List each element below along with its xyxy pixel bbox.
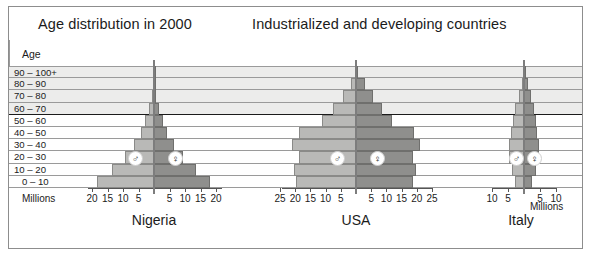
- axis-tick-label: 15: [396, 193, 407, 204]
- bar-male: [509, 139, 524, 151]
- axis-tick-label: 5: [136, 193, 142, 204]
- age-band-label: 20 – 30: [14, 151, 46, 163]
- axis-tick: [295, 188, 296, 192]
- axis-tick: [139, 188, 140, 192]
- axis-tick: [310, 188, 311, 192]
- axis-tick: [417, 188, 418, 192]
- female-symbol-icon: ♀: [168, 151, 183, 166]
- axis-tick-label: 10: [179, 193, 190, 204]
- bar-female: [524, 127, 537, 139]
- unit-label: Millions: [530, 201, 563, 212]
- axis-tick-label: 5: [505, 193, 511, 204]
- age-band-label: 70 – 80: [14, 90, 46, 102]
- axis-tick: [386, 188, 387, 192]
- age-band-label: 0 – 10: [22, 176, 49, 188]
- age-band-label: 50 – 60: [14, 115, 46, 127]
- pyramid-center-axis: [355, 60, 356, 194]
- axis-tick: [371, 188, 372, 192]
- male-symbol-icon: ♂: [128, 151, 143, 166]
- pyramid-center-axis: [523, 60, 524, 194]
- age-band-label: 10 – 20: [14, 164, 46, 176]
- axis-tick: [402, 188, 403, 192]
- scale-usa: 551010151520202525: [282, 188, 432, 214]
- bar-male: [511, 127, 524, 139]
- pyramid-center-axis: [153, 60, 154, 194]
- pyramid-italy: ♂♀: [0, 66, 591, 188]
- unit-label: Millions: [22, 193, 55, 204]
- bar-female: [524, 176, 532, 188]
- female-symbol-icon: ♀: [527, 151, 542, 166]
- axis-tick: [108, 188, 109, 192]
- age-axis-label: Age: [22, 48, 41, 60]
- axis-tick: [170, 188, 171, 192]
- male-symbol-icon: ♂: [509, 151, 524, 166]
- axis-tick-label: 25: [426, 193, 437, 204]
- axis-tick: [508, 188, 509, 192]
- axis-tick: [280, 188, 281, 192]
- axis-tick-label: 10: [486, 193, 497, 204]
- title-right: Industrialized and developing countries: [252, 16, 507, 32]
- axis-tick-label: 5: [338, 193, 344, 204]
- axis-tick-label: 20: [86, 193, 97, 204]
- title-left: Age distribution in 2000: [38, 16, 192, 32]
- axis-tick-label: 20: [210, 193, 221, 204]
- bar-female: [524, 139, 539, 151]
- country-name-usa: USA: [342, 212, 371, 228]
- axis-tick-label: 10: [117, 193, 128, 204]
- age-band-label: 80 – 90: [14, 78, 46, 90]
- bar-female: [524, 115, 536, 127]
- axis-tick: [341, 188, 342, 192]
- axis-tick-label: 10: [320, 193, 331, 204]
- population-pyramid-figure: Age distribution in 2000 Industrialized …: [0, 0, 591, 262]
- axis-tick-label: 15: [305, 193, 316, 204]
- axis-tick: [326, 188, 327, 192]
- bar-female: [524, 103, 534, 115]
- axis-tick-label: 15: [102, 193, 113, 204]
- axis-tick: [92, 188, 93, 192]
- axis-tick: [216, 188, 217, 192]
- axis-tick-label: 5: [368, 193, 374, 204]
- axis-tick: [556, 188, 557, 192]
- axis-tick: [432, 188, 433, 192]
- age-band-label: 40 – 50: [14, 127, 46, 139]
- axis-tick-label: 5: [167, 193, 173, 204]
- axis-tick: [123, 188, 124, 192]
- axis-tick-label: 15: [195, 193, 206, 204]
- age-band-label: 60 – 70: [14, 103, 46, 115]
- axis-tick-label: 10: [381, 193, 392, 204]
- female-symbol-icon: ♀: [370, 151, 385, 166]
- axis-tick-label: 25: [274, 193, 285, 204]
- scale-nigeria: 55101015152020: [88, 188, 222, 214]
- country-name-nigeria: Nigeria: [132, 212, 176, 228]
- bar-male: [513, 115, 524, 127]
- country-name-italy: Italy: [508, 212, 534, 228]
- axis-tick: [540, 188, 541, 192]
- axis-tick-label: 20: [290, 193, 301, 204]
- scale-baseline: [282, 188, 432, 189]
- bar-female: [524, 90, 531, 102]
- axis-tick-label: 20: [411, 193, 422, 204]
- axis-tick: [492, 188, 493, 192]
- axis-tick: [201, 188, 202, 192]
- age-band-label: 30 – 40: [14, 139, 46, 151]
- axis-tick: [185, 188, 186, 192]
- male-symbol-icon: ♂: [330, 151, 345, 166]
